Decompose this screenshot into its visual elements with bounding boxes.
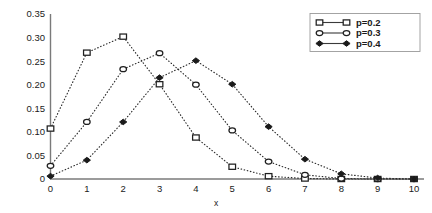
x-tick-label: 3 xyxy=(157,183,162,194)
data-point-p=0.3 xyxy=(193,82,200,87)
legend-label: p=0.3 xyxy=(356,27,381,38)
data-point-p=0.2 xyxy=(193,135,200,140)
data-point-p=0.3 xyxy=(302,172,309,177)
y-tick-label: 0.35 xyxy=(27,8,46,19)
data-point-p=0.3 xyxy=(84,119,91,124)
legend-marker-p=0.2 xyxy=(343,20,350,25)
x-tick-label: 2 xyxy=(121,183,126,194)
series-paths xyxy=(51,37,415,179)
data-point-p=0.4 xyxy=(83,157,90,163)
series-line-p=0.3 xyxy=(51,53,415,179)
data-point-p=0.2 xyxy=(84,50,91,55)
x-tick-label: 1 xyxy=(84,183,89,194)
y-tick-label: 0.25 xyxy=(27,56,46,67)
y-tick-label: 0 xyxy=(40,173,45,184)
data-point-p=0.3 xyxy=(120,67,127,72)
series-line-p=0.4 xyxy=(51,61,415,179)
data-point-p=0.2 xyxy=(120,34,127,39)
data-point-p=0.2 xyxy=(156,82,163,87)
series-markers xyxy=(47,34,418,182)
data-point-p=0.4 xyxy=(338,171,345,177)
data-point-p=0.2 xyxy=(47,126,54,131)
y-tick-label: 0.05 xyxy=(27,150,46,161)
x-tick-label: 0 xyxy=(48,183,53,194)
y-tick-label: 0.10 xyxy=(27,126,46,137)
legend: p=0.2p=0.3p=0.4 xyxy=(310,14,420,52)
x-tick-label: 5 xyxy=(230,183,235,194)
y-tick-label: 0.20 xyxy=(27,79,46,90)
y-tick-label: 0.30 xyxy=(27,32,46,43)
data-point-p=0.4 xyxy=(301,156,308,162)
data-point-p=0.3 xyxy=(229,128,236,133)
data-point-p=0.2 xyxy=(229,164,236,169)
binomial-distribution-chart: 00.050.100.150.200.250.300.35 0123456789… xyxy=(0,0,432,213)
x-tick-label: 9 xyxy=(375,183,380,194)
x-axis-tick-labels: 012345678910 xyxy=(48,183,419,194)
x-tick-label: 6 xyxy=(266,183,271,194)
y-tick-label: 0.15 xyxy=(27,103,46,114)
x-axis-title: x xyxy=(214,198,219,208)
chart-container: 00.050.100.150.200.250.300.35 0123456789… xyxy=(0,0,432,213)
data-point-p=0.3 xyxy=(47,163,54,168)
data-point-p=0.3 xyxy=(156,51,163,56)
x-tick-label: 8 xyxy=(339,183,344,194)
data-point-p=0.4 xyxy=(156,75,163,81)
y-axis-tick-labels: 00.050.100.150.200.250.300.35 xyxy=(27,8,46,184)
x-tick-label: 4 xyxy=(193,183,198,194)
legend-marker-p=0.3 xyxy=(316,31,323,36)
legend-label: p=0.4 xyxy=(356,38,381,49)
data-point-p=0.4 xyxy=(47,173,54,179)
x-tick-label: 7 xyxy=(302,183,307,194)
legend-marker-p=0.2 xyxy=(316,20,323,25)
data-point-p=0.3 xyxy=(265,159,272,164)
series-line-p=0.2 xyxy=(51,37,415,179)
x-tick-label: 10 xyxy=(409,183,420,194)
legend-marker-p=0.3 xyxy=(343,31,350,36)
data-point-p=0.2 xyxy=(265,174,272,179)
legend-label: p=0.2 xyxy=(356,17,381,28)
